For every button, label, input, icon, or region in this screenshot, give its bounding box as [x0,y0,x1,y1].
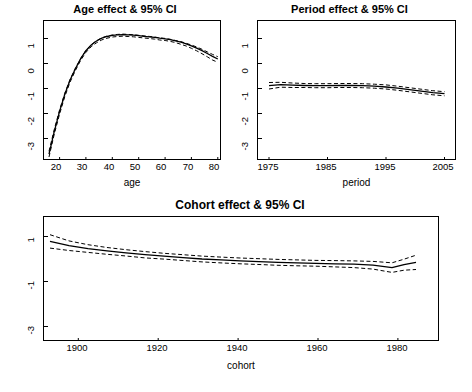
cohort-xtick-1980: 1980 [383,342,411,353]
age-lower-ci-line [49,36,218,157]
period-xtick-2005: 2005 [429,161,457,172]
period-xtick-marks [269,157,445,160]
cohort-xtick-1960: 1960 [303,342,331,353]
period-effect-panel: Period effect & 95% CI 1 0 -1 -2 -3 197 [232,0,472,190]
age-xtick-60: 60 [153,161,169,172]
cohort-xtick-1940: 1940 [223,342,251,353]
period-ytick-marks [258,39,262,139]
period-xtick-1995: 1995 [371,161,399,172]
age-plot-area [43,20,221,160]
age-curve-svg [44,21,221,160]
age-xtick-20: 20 [48,161,64,172]
age-effect-panel: Age effect & 95% CI 1 0 -1 -2 -3 [0,0,232,190]
age-xtick-70: 70 [180,161,196,172]
period-ytick-neg1: -1 [239,85,250,101]
period-ytick-neg2: -2 [239,110,250,126]
age-xtick-30: 30 [74,161,90,172]
period-ytick-neg3: -3 [239,135,250,151]
cohort-ytick-marks [44,237,48,327]
age-estimate-line [49,35,218,155]
cohort-plot-area [43,216,439,341]
cohort-ytick-neg1: -1 [25,274,36,290]
period-curve-svg [258,21,456,160]
age-upper-ci-line [49,34,218,151]
period-plot-area [257,20,456,160]
age-ytick-neg2: -2 [25,110,36,126]
period-xtick-1975: 1975 [254,161,282,172]
cohort-ytick-1: 1 [25,231,36,243]
period-panel-title: Period effect & 95% CI [242,3,457,15]
cohort-upper-ci-line [50,235,416,263]
cohort-ytick-neg3: -3 [25,319,36,335]
age-ytick-marks [44,39,48,139]
age-xtick-40: 40 [101,161,117,172]
period-ytick-1: 1 [239,37,250,49]
cohort-curve-svg [44,217,439,341]
cohort-xaxis-label: cohort [43,360,439,371]
cohort-panel-title: Cohort effect & 95% CI [60,198,420,212]
age-xaxis-label: age [43,177,221,188]
cohort-xtick-1920: 1920 [143,342,171,353]
period-ytick-0: 0 [239,62,250,74]
age-xtick-marks [60,157,218,160]
age-ytick-neg1: -1 [25,85,36,101]
age-panel-title: Age effect & 95% CI [30,3,220,15]
period-xaxis-label: period [257,177,456,188]
age-ytick-0: 0 [25,62,36,74]
period-lower-ci-line [269,87,445,96]
cohort-xtick-marks [78,338,398,341]
age-ytick-1: 1 [25,37,36,49]
cohort-effect-panel: Cohort effect & 95% CI 1 -1 -3 1900 1920… [0,190,472,392]
age-xtick-80: 80 [206,161,222,172]
period-xtick-1985: 1985 [312,161,340,172]
cohort-xtick-1900: 1900 [63,342,91,353]
age-ytick-neg3: -3 [25,135,36,151]
age-xtick-50: 50 [127,161,143,172]
